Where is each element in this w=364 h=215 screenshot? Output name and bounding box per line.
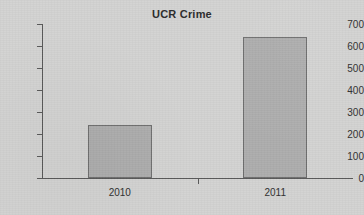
y-tick-mark xyxy=(37,178,43,179)
bar-2010[interactable] xyxy=(88,125,152,178)
x-tick-label-2011: 2011 xyxy=(264,187,286,198)
y-tick-mark xyxy=(37,24,43,25)
x-tick-label-2010: 2010 xyxy=(109,187,131,198)
chart-title: UCR Crime xyxy=(0,8,364,20)
y-tick-mark xyxy=(37,90,43,91)
y-tick-label: 100 xyxy=(334,151,364,162)
y-tick-mark xyxy=(37,134,43,135)
y-tick-label: 400 xyxy=(334,85,364,96)
y-tick-label: 0 xyxy=(334,173,364,184)
x-tick-mark xyxy=(198,179,199,184)
y-tick-mark xyxy=(37,112,43,113)
bar-chart: UCR Crime 0100200300400500600700 2010201… xyxy=(0,0,364,215)
y-tick-label: 200 xyxy=(334,129,364,140)
y-tick-label: 500 xyxy=(334,63,364,74)
y-tick-label: 300 xyxy=(334,107,364,118)
y-tick-mark xyxy=(37,68,43,69)
y-tick-mark xyxy=(37,156,43,157)
y-tick-label: 700 xyxy=(334,19,364,30)
y-tick-label: 600 xyxy=(334,41,364,52)
y-tick-mark xyxy=(37,46,43,47)
bar-2011[interactable] xyxy=(243,37,307,178)
